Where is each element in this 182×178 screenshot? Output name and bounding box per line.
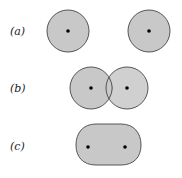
label-c: (c) [10,140,25,153]
nucleus-dot [89,86,93,90]
nucleus-dot [123,145,127,149]
nucleus-dot [66,29,70,33]
row-c-merged [76,124,141,165]
row-a-separated [47,10,170,52]
diagram: (a) (b) (c) [0,0,182,178]
merged-shape [76,124,141,165]
label-b: (b) [10,82,26,95]
label-a: (a) [10,25,25,38]
nucleus-dot [147,29,151,33]
nucleus-dot [86,145,90,149]
row-b-overlapping [70,67,148,109]
nucleus-dot [125,86,129,90]
